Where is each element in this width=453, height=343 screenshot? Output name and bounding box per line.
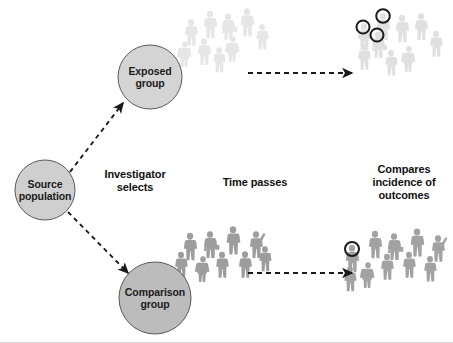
compares-incidence-label: Compares incidence of outcomes (354, 163, 453, 202)
comparison-followup-crowd (344, 228, 447, 291)
exposed-baseline-crowd (177, 8, 269, 72)
select-exposed-arrow (70, 103, 123, 172)
select-comparison-arrow (68, 212, 128, 273)
exposed-group-node[interactable] (118, 45, 182, 109)
time-passes-label: Time passes (205, 176, 305, 189)
cohort-study-diagram: Source population Exposed group Comparis… (0, 0, 453, 343)
source-population-node[interactable] (15, 160, 75, 220)
comparison-group-node[interactable] (119, 262, 191, 334)
exposed-followup-crowd (358, 13, 443, 76)
investigator-selects-label: Investigator selects (85, 168, 185, 194)
